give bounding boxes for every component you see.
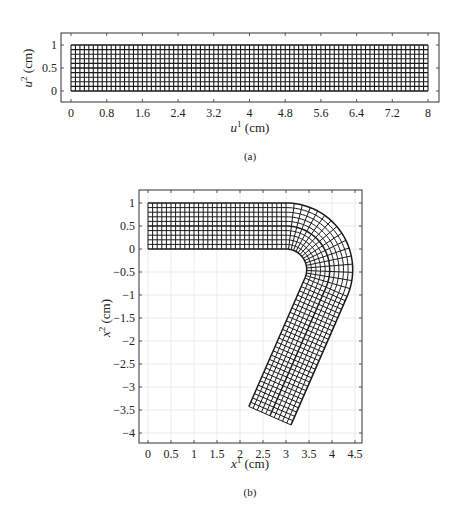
x-tick-label: 7.2 [385, 106, 400, 120]
x-tick-label: 0 [145, 447, 151, 461]
y-tick-label: 1 [51, 38, 57, 52]
y-tick-label: 0.5 [120, 219, 135, 233]
x-tick-label: 4 [247, 106, 253, 120]
y-tick-label: −0.5 [113, 265, 135, 279]
panel-a-y-axis-label: u2 (cm) [19, 49, 35, 88]
panel-a-rectangular-mesh: 00.81.62.43.244.85.66.47.28 00.51 u1 (cm… [19, 33, 439, 163]
x-tick-label: 3 [283, 447, 289, 461]
figure: 00.81.62.43.244.85.66.47.28 00.51 u1 (cm… [0, 0, 456, 511]
x-tick-label: 8 [425, 106, 431, 120]
y-tick-label: −1.5 [113, 311, 135, 325]
y-tick-label: −3 [122, 380, 135, 394]
y-tick-label: 0.5 [42, 61, 57, 75]
x-tick-label: 6.4 [349, 106, 364, 120]
x-tick-label: 5.6 [313, 106, 328, 120]
y-tick-label: −2 [122, 334, 135, 348]
panel-a-x-axis-label: u1 (cm) [231, 119, 270, 135]
panel-a-mesh [71, 45, 428, 91]
panel-b-bent-mesh: 00.511.522.533.544.5 10.50−0.5−1−1.5−2−2… [97, 190, 363, 499]
y-tick-label: −1 [122, 288, 135, 302]
x-tick-label: 0.5 [164, 447, 179, 461]
y-tick-label: 1 [129, 196, 135, 210]
x-tick-label: 2.4 [171, 106, 186, 120]
panel-b-y-axis-label: x2 (cm) [97, 299, 113, 338]
x-tick-label: 4.8 [278, 106, 293, 120]
panel-b-x-axis-label: x1 (cm) [230, 455, 269, 471]
y-tick-label: −4 [122, 426, 135, 440]
x-tick-label: 1 [191, 447, 197, 461]
x-tick-label: 1.6 [135, 106, 150, 120]
y-tick-label: 0 [51, 84, 57, 98]
x-tick-label: 0.8 [99, 106, 114, 120]
y-tick-label: 0 [129, 242, 135, 256]
x-tick-label: 3.5 [302, 447, 317, 461]
panel-b-caption: (b) [244, 486, 257, 499]
panel-a-caption: (a) [244, 150, 257, 163]
x-tick-label: 1.5 [210, 447, 225, 461]
x-tick-label: 4.5 [348, 447, 363, 461]
x-tick-label: 3.2 [206, 106, 221, 120]
x-tick-label: 0 [68, 106, 74, 120]
y-tick-label: −2.5 [113, 357, 135, 371]
y-tick-label: −3.5 [113, 403, 135, 417]
x-tick-label: 4 [329, 447, 335, 461]
